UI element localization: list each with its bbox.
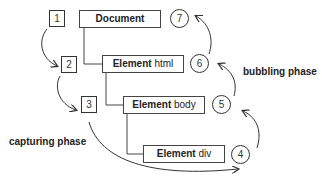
bubble-step-6: 6 — [190, 54, 209, 73]
bubble-step-7: 7 — [170, 9, 189, 28]
node-div-type: Element — [157, 148, 196, 159]
capture-step-2: 2 — [61, 56, 77, 73]
node-element-div: Element div — [143, 145, 225, 163]
capture-step-1: 1 — [49, 10, 65, 27]
target-step-4: 4 — [231, 145, 250, 164]
node-body-tag: body — [171, 99, 195, 110]
node-html-tag: html — [152, 58, 174, 69]
bubble-step-5: 5 — [212, 95, 231, 114]
node-element-html: Element html — [102, 55, 184, 73]
node-html-type: Element — [113, 58, 152, 69]
node-element-body: Element body — [123, 96, 205, 114]
node-div-tag: div — [196, 148, 212, 159]
node-body-type: Element — [132, 99, 171, 110]
node-document-type: Document — [96, 13, 145, 24]
capturing-phase-label: capturing phase — [9, 136, 86, 147]
bubbling-phase-label: bubbling phase — [243, 66, 317, 77]
node-document: Document — [79, 10, 161, 28]
capture-step-3: 3 — [81, 96, 97, 113]
